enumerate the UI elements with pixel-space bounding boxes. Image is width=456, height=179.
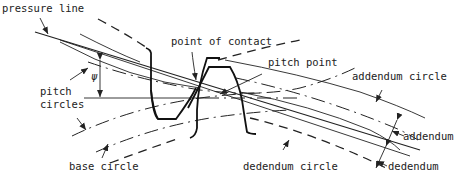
upper-base-circle xyxy=(60,42,200,88)
pitch-circles-arrow-up xyxy=(70,68,88,80)
pitch-point-label: pitch point xyxy=(268,56,338,68)
pressure-line-arrow xyxy=(40,18,48,34)
addendum-circle-arrow xyxy=(376,90,382,102)
point-of-contact-label: point of contact xyxy=(171,35,272,47)
dedendum-label: dedendum xyxy=(388,160,439,172)
dedendum-circle-label: dedendum circle xyxy=(243,160,338,172)
point-of-contact-arrow xyxy=(192,52,196,80)
pitch-point-arrow xyxy=(220,74,262,94)
base-circle-arrow xyxy=(102,144,108,158)
base-circle-label: base circle xyxy=(69,160,139,172)
pressure-line xyxy=(35,32,420,150)
lower-pitch-circle xyxy=(236,78,418,140)
addendum-label: addendum xyxy=(403,130,454,142)
gear-nomenclature-diagram: pressure line point of contact pitch poi… xyxy=(0,0,456,179)
pressure-line-label: pressure line xyxy=(2,2,84,14)
psi-symbol: ψ xyxy=(91,70,98,82)
left-base-circle-arc xyxy=(96,110,290,152)
upper-addendum-circle xyxy=(98,19,150,50)
addendum-circle-label: addendum circle xyxy=(352,70,447,82)
dedendum-circle-arrow xyxy=(283,140,289,150)
lower-addendum-circle xyxy=(225,60,425,118)
left-pitch-circle-arc xyxy=(72,93,260,136)
pitch-circles-arrow-down xyxy=(77,118,86,130)
pitch-circles-label-line1: pitch xyxy=(40,85,72,97)
pitch-circles-label-line2: circles xyxy=(40,98,84,110)
